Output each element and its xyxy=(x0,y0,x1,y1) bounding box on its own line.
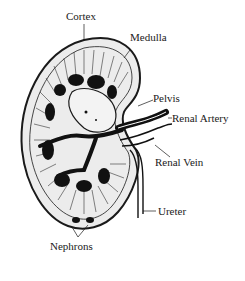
kidney-illustration xyxy=(0,0,245,281)
kidney-outline xyxy=(22,38,140,229)
label-renal-artery: Renal Artery xyxy=(172,112,229,124)
label-pelvis: Pelvis xyxy=(153,92,180,104)
label-nephrons: Nephrons xyxy=(50,240,93,252)
label-ureter: Ureter xyxy=(158,205,186,217)
label-cortex: Cortex xyxy=(66,10,96,22)
label-renal-vein: Renal Vein xyxy=(155,156,203,168)
label-medulla: Medulla xyxy=(130,31,167,43)
